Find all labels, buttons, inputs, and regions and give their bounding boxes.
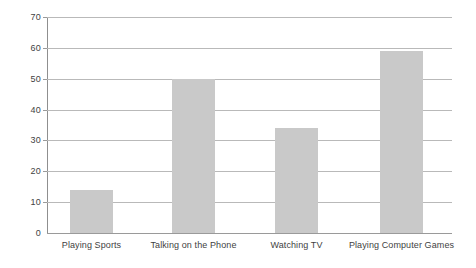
y-axis: 010203040506070 bbox=[0, 0, 41, 268]
gridline bbox=[47, 233, 452, 234]
bar bbox=[70, 190, 113, 233]
y-axis-tick-label: 0 bbox=[7, 229, 41, 238]
y-axis-tick-label: 30 bbox=[7, 136, 41, 145]
y-axis-tick-label: 10 bbox=[7, 198, 41, 207]
y-axis-tick-label: 20 bbox=[7, 167, 41, 176]
gridline bbox=[47, 17, 452, 18]
bar bbox=[172, 79, 215, 233]
plot-area bbox=[47, 17, 452, 233]
y-axis-tick-label: 50 bbox=[7, 75, 41, 84]
y-axis-tick-label: 40 bbox=[7, 106, 41, 115]
gridline bbox=[47, 48, 452, 49]
y-axis-tick-label: 60 bbox=[7, 44, 41, 53]
bar bbox=[275, 128, 318, 233]
y-axis-tick-label: 70 bbox=[7, 13, 41, 22]
bar-chart: 010203040506070 Playing SportsTalking on… bbox=[0, 0, 476, 268]
bar bbox=[380, 51, 423, 233]
x-axis-category-label: Playing Computer Games bbox=[312, 240, 476, 250]
